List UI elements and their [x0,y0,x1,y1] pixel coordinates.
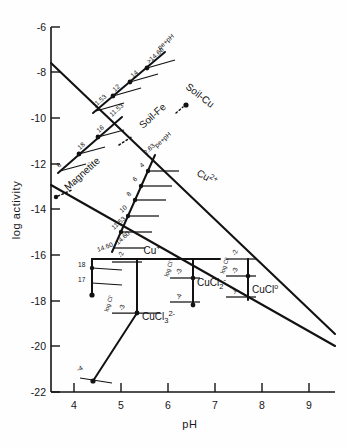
x-tick-label: 6 [165,399,171,411]
cucl0-label: CuClo [252,283,278,295]
cu2plus-ladder: 14.60 11.53 10 8 6 4 2.63 pe+pH [110,130,179,252]
ladder-node [133,198,137,202]
ladder-node [111,94,116,99]
ladder-tick-label: -2 [230,248,239,256]
y-tick-label: -12 [31,158,46,170]
ladder-node [90,378,95,383]
ladder-tick-label: -4 [230,287,239,295]
chart-svg: -6 -8 -10 -12 -14 -16 -18 -20 -22 4 5 6 … [0,0,347,447]
ladder-node [191,276,196,281]
soil-cu-label: Soil-Cu [184,81,217,110]
y-axis-title: log activity [10,181,22,240]
x-tick-labels: 4 5 6 7 8 9 [71,399,312,411]
x-axis-title: pH [182,418,197,430]
log-cl-label: log Cl- [161,258,174,277]
cucl0-ladder: -2 -3 -4 log Cl- CuClo [217,248,278,300]
cucl3-label: CuCl32- [142,309,176,325]
y-tick-label: -14 [31,203,46,215]
soil-fe-node [183,102,188,107]
x-ticks-group [74,383,309,392]
ladder-node [96,135,101,140]
y-tick-label: -18 [31,295,46,307]
ladder-tick-label: -4 [75,364,84,373]
magnetite-label: Magnetite [62,155,102,193]
cuplus-group: Cu+ 14.60 [92,241,220,259]
ladder-node [139,184,143,188]
ladder-node [145,66,150,71]
cucl3-lower-spine [93,313,137,381]
soil-fe-ladder: 11.53 12 14 >14.60 pe+pH [91,32,176,113]
magnetite-node [54,195,58,199]
soil-fe-label-group: Soil-Fe [137,101,189,131]
ladder-rung [92,283,122,285]
ladder-tick-label: -4 [174,292,183,300]
ladder-tick-label: -3 [117,303,126,311]
ladder-node [128,80,133,85]
ladder-node [90,266,94,270]
ladder-node [135,311,140,316]
chart-figure: -6 -8 -10 -12 -14 -16 -18 -20 -22 4 5 6 … [0,0,347,447]
x-tick-label: 4 [71,399,77,411]
cucl2-ladder: -3 -4 log Cl- CuCl2- [161,258,226,307]
y-tick-label: -8 [37,66,46,78]
ladder-node [126,214,130,218]
x-tick-label: 5 [118,399,124,411]
cu2plus-label: Cu2+ [195,165,221,187]
cuplus-left-ladder: 18 17 [78,259,122,298]
ladder-tick-label: 4 [138,161,146,169]
ladder-tick-label: 17 [78,276,86,283]
y-tick-label: -22 [31,386,46,398]
x-tick-label: 8 [259,399,265,411]
y-ticks-group [51,27,60,392]
soil-fe-label: Soil-Fe [137,101,168,131]
y-tick-label: -20 [31,340,46,352]
y-tick-label: -16 [31,249,46,261]
ladder-node [146,169,150,173]
ladder-node [246,274,251,279]
ladder-tick-label: 14 [129,68,139,78]
ladder-tick-label: 6 [131,175,139,183]
soil-fe-leader [176,107,183,113]
x-tick-label: 9 [306,399,312,411]
x-tick-label: 7 [212,399,218,411]
ladder-node [77,152,82,157]
cuplus-label: Cu+ [143,243,161,256]
ladder-rung [92,268,122,270]
pe-ph-label: pe+pH [153,130,173,149]
y-tick-label: -6 [37,21,46,33]
ladder-tick-label: 10 [118,203,128,213]
ladder-node [191,303,196,308]
cucl3-ladder: -2 -3 -4 log Cl- CuCl32- [75,250,175,383]
ladder-tick-label: 8 [125,190,133,198]
ladder-tick-label: -3 [230,266,239,274]
ladder-tick-label: -3 [174,267,183,275]
cucl2-label: CuCl2- [197,275,226,291]
log-cl-label: log Cl- [101,293,114,312]
ladder-rung [80,378,112,383]
ladder-tick-label: 18 [78,261,86,268]
pe-ph-label: pe+pH [156,32,176,51]
y-tick-label: -10 [31,112,46,124]
y-tick-labels: -6 -8 -10 -12 -14 -16 -18 -20 -22 [31,21,46,398]
ladder-node [89,292,94,297]
ladder-tick-label: -2 [116,250,125,258]
ladder-tick-label: 8 [55,161,63,169]
